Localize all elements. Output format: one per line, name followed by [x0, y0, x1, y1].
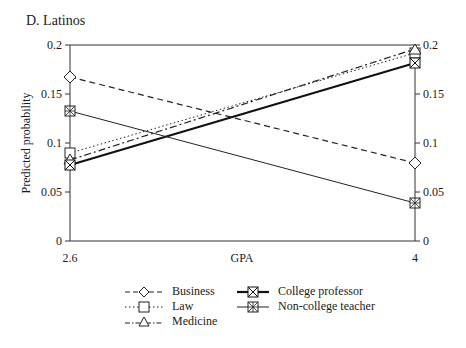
svg-text:0.1: 0.1 [47, 136, 62, 150]
legend-item-business: Business [124, 284, 215, 299]
series-business [64, 71, 421, 169]
svg-text:0.15: 0.15 [41, 87, 62, 101]
svg-text:0.15: 0.15 [423, 87, 444, 101]
svg-text:0.2: 0.2 [423, 38, 438, 52]
series-college-professor [65, 58, 420, 170]
svg-text:0.1: 0.1 [423, 136, 438, 150]
legend-thick-crossed-square-icon [236, 286, 270, 298]
svg-text:0: 0 [423, 234, 429, 248]
svg-text:0: 0 [56, 234, 62, 248]
y-axis-label: Predicted probability [19, 93, 33, 194]
svg-text:0.05: 0.05 [41, 185, 62, 199]
legend-dashdot-triangle-icon [124, 316, 164, 328]
legend-item-college-professor: College professor [236, 284, 363, 299]
legend-item-law: Law [124, 299, 193, 314]
series-non-college-teacher [65, 106, 420, 208]
chart-plot: 0.2 0.15 0.1 0.05 0 0.2 0.15 0.1 0.05 0 … [0, 0, 466, 348]
left-y-axis: 0.2 0.15 0.1 0.05 0 [41, 38, 70, 248]
x-axis-label: GPA [231, 251, 254, 265]
series-medicine [64, 44, 421, 164]
legend-dotted-square-icon [124, 301, 164, 313]
svg-text:0.05: 0.05 [423, 185, 444, 199]
right-y-axis: 0.2 0.15 0.1 0.05 0 [415, 38, 444, 248]
legend-item-medicine: Medicine [124, 314, 217, 329]
x-tick-4: 4 [412, 251, 418, 265]
legend-thin-crossed-square-icon [236, 301, 270, 313]
legend-dashed-diamond-icon [124, 286, 164, 298]
svg-text:0.2: 0.2 [47, 38, 62, 52]
x-tick-2-6: 2.6 [63, 251, 78, 265]
legend-item-non-college-teacher: Non-college teacher [236, 299, 375, 314]
